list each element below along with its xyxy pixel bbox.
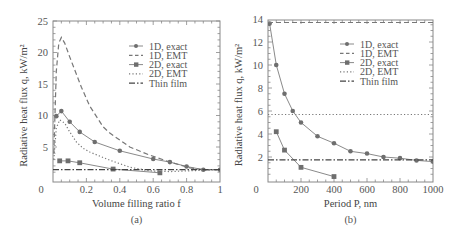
series-line-1d-emt bbox=[54, 37, 220, 169]
legend: 1D, exact1D, EMT2D, exact2D, EMTThin fil… bbox=[340, 39, 399, 87]
y-tick-label: 20 bbox=[38, 47, 49, 58]
y-tick-label: 5 bbox=[43, 142, 48, 153]
data-point-circle bbox=[282, 91, 287, 96]
y-tick-label: 4 bbox=[258, 129, 264, 140]
data-point-circle bbox=[365, 151, 370, 156]
data-point-circle bbox=[59, 109, 64, 114]
x-axis-label: Period P, nm bbox=[324, 198, 377, 209]
chart-panel-b: 020040060080010002468101214Period P, nmR… bbox=[233, 14, 444, 227]
y-tick-label: 6 bbox=[258, 106, 263, 117]
y-tick-label: 8 bbox=[258, 83, 263, 94]
x-tick-label: 1 bbox=[217, 184, 222, 195]
y-tick-label: 10 bbox=[253, 60, 264, 71]
x-tick-label: 0.8 bbox=[180, 184, 193, 195]
series-line-2d-exact bbox=[276, 132, 334, 177]
data-point-circle bbox=[290, 109, 295, 114]
data-point-circle bbox=[77, 130, 82, 135]
panel-label: (b) bbox=[344, 214, 357, 226]
data-point-circle bbox=[274, 63, 279, 68]
figure: 00.20.40.60.81510152025Volume filling ra… bbox=[0, 0, 461, 234]
data-point-circle bbox=[92, 140, 97, 145]
x-tick-label: 0 bbox=[38, 184, 43, 195]
y-tick-label: 25 bbox=[38, 16, 49, 27]
data-point-square bbox=[66, 158, 71, 163]
data-point-circle bbox=[118, 148, 123, 153]
series-line-2d-exact bbox=[60, 161, 160, 173]
legend-marker-square bbox=[345, 60, 349, 64]
y-tick-label: 12 bbox=[253, 37, 264, 48]
y-tick-label: 14 bbox=[253, 14, 264, 25]
x-tick-label: 0.4 bbox=[113, 184, 127, 195]
data-point-circle bbox=[381, 155, 386, 160]
data-point-square bbox=[111, 167, 116, 172]
legend: 1D, exact1D, EMT2D, exact2D, EMTThin fil… bbox=[129, 41, 188, 89]
data-point-square bbox=[77, 160, 82, 165]
legend-marker-circle bbox=[345, 42, 349, 46]
data-point-square bbox=[299, 165, 304, 170]
legend-marker-square bbox=[134, 62, 138, 66]
x-axis-label: Volume filling ratio f bbox=[92, 198, 181, 209]
data-point-circle bbox=[348, 149, 353, 154]
series-group bbox=[267, 21, 435, 179]
data-point-square bbox=[57, 158, 62, 163]
chart-panel-a: 00.20.40.60.81510152025Volume filling ra… bbox=[18, 16, 223, 227]
legend-marker-circle bbox=[134, 44, 138, 48]
x-tick-label: 400 bbox=[326, 184, 342, 195]
x-tick-label: 600 bbox=[359, 184, 375, 195]
x-tick-label: 0 bbox=[253, 184, 258, 195]
x-tick-label: 1000 bbox=[423, 184, 444, 195]
data-point-square bbox=[282, 148, 287, 153]
data-point-circle bbox=[67, 120, 72, 125]
data-point-circle bbox=[315, 134, 320, 139]
legend-label: Thin film bbox=[360, 76, 398, 87]
data-point-circle bbox=[332, 141, 337, 146]
y-tick-label: 10 bbox=[38, 110, 49, 121]
x-tick-label: 200 bbox=[293, 184, 309, 195]
data-point-square bbox=[274, 129, 279, 134]
y-axis-label: Radiative heat flux q, kW/m² bbox=[233, 44, 244, 166]
y-tick-label: 15 bbox=[38, 79, 49, 90]
x-tick-label: 800 bbox=[392, 184, 408, 195]
series-group bbox=[53, 37, 222, 175]
data-point-circle bbox=[299, 120, 304, 125]
y-tick-label: 2 bbox=[258, 152, 263, 163]
panel-label: (a) bbox=[131, 214, 143, 226]
data-point-square bbox=[332, 174, 337, 179]
x-tick-label: 0.2 bbox=[80, 184, 93, 195]
x-tick-label: 0.6 bbox=[147, 184, 160, 195]
y-axis-label: Radiative heat flux q, kW/m² bbox=[18, 44, 29, 166]
legend-label: Thin film bbox=[149, 78, 187, 89]
